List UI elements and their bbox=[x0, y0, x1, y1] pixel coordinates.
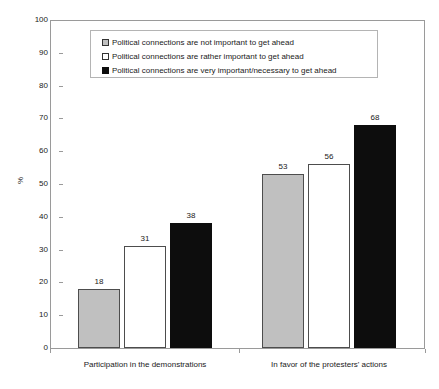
legend-label: Political connections are rather importa… bbox=[112, 53, 304, 61]
bar[interactable] bbox=[308, 164, 350, 348]
bar-value-label: 68 bbox=[348, 114, 402, 122]
bar-value-label: 53 bbox=[256, 163, 310, 171]
x-tick-mark bbox=[239, 349, 240, 353]
legend: Political connections are not important … bbox=[90, 30, 378, 78]
bar-value-label: 38 bbox=[164, 212, 218, 220]
legend-label: Political connections are very important… bbox=[112, 67, 337, 75]
bar[interactable] bbox=[124, 246, 166, 348]
legend-item[interactable]: Political connections are not important … bbox=[102, 36, 377, 49]
legend-swatch-white-icon bbox=[102, 53, 109, 60]
bar-value-label: 31 bbox=[118, 235, 172, 243]
legend-item[interactable]: Political connections are rather importa… bbox=[102, 50, 377, 63]
legend-label: Political connections are not important … bbox=[112, 39, 294, 47]
legend-item[interactable]: Political connections are very important… bbox=[102, 64, 377, 77]
x-axis-category-label: In favor of the protesters' actions bbox=[239, 361, 419, 369]
x-tick-mark bbox=[425, 349, 426, 353]
legend-swatch-gray-icon bbox=[102, 39, 109, 46]
legend-swatch-black-icon bbox=[102, 67, 109, 74]
bar[interactable] bbox=[78, 289, 120, 348]
x-tick-mark bbox=[50, 349, 51, 353]
bar[interactable] bbox=[170, 223, 212, 348]
bar[interactable] bbox=[262, 174, 304, 348]
bar-chart: % 1009080706050403020100 183138535668 Pa… bbox=[0, 0, 439, 389]
bar-value-label: 18 bbox=[72, 278, 126, 286]
bar[interactable] bbox=[354, 125, 396, 348]
bar-value-label: 56 bbox=[302, 153, 356, 161]
x-axis-category-label: Participation in the demonstrations bbox=[55, 361, 235, 369]
